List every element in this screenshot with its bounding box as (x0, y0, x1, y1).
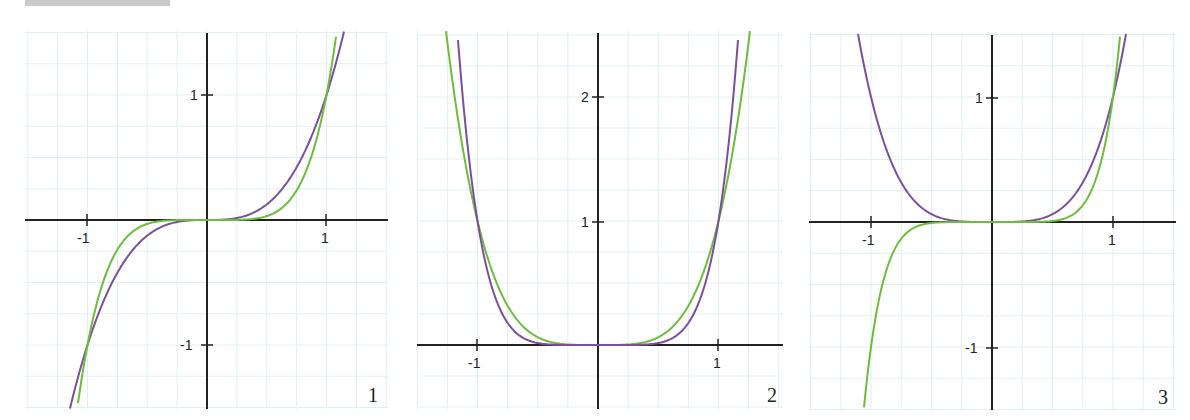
y-tick-label: -1 (965, 340, 978, 356)
x-tick-label: -1 (77, 230, 90, 246)
x-tick-label: -1 (468, 355, 481, 371)
panel-3: -1 1 1 -1 3 (809, 33, 1176, 410)
x-tick-label: 1 (713, 355, 721, 371)
x-tick-label: -1 (862, 232, 875, 248)
x-tick-label: 1 (1108, 232, 1116, 248)
y-tick-label: 1 (581, 214, 589, 230)
panel-number: 3 (1158, 386, 1168, 408)
y-tick-label: -1 (180, 337, 193, 353)
chart-canvas: -1 1 1 -1 1 -1 1 2 1 2 -1 1 1 -1 (0, 0, 1190, 420)
x-tick-label: 1 (321, 230, 329, 246)
panel-number: 2 (767, 384, 777, 406)
panel-1: -1 1 1 -1 1 (25, 31, 388, 409)
panel-2: -1 1 2 1 2 (417, 31, 783, 409)
y-tick-label: 1 (975, 90, 983, 106)
y-tick-label: 1 (190, 87, 198, 103)
grid (417, 31, 783, 409)
panel-number: 1 (368, 384, 378, 406)
y-tick-label: 2 (581, 89, 589, 105)
